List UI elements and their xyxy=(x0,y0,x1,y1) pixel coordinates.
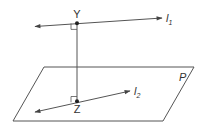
label-y: Y xyxy=(73,8,81,20)
line-l1 xyxy=(35,18,162,27)
label-l2-subscript: 2 xyxy=(135,92,140,99)
label-z: Z xyxy=(74,103,81,115)
label-l1-subscript: 1 xyxy=(168,19,172,26)
label-l1: l1 xyxy=(166,12,172,26)
label-l2: l2 xyxy=(134,85,140,99)
label-plane-p: P xyxy=(179,71,187,83)
geometry-diagram: Y Z l1 l2 P xyxy=(0,0,206,133)
plane-p xyxy=(13,67,194,121)
point-y xyxy=(75,21,79,25)
line-l2 xyxy=(35,91,130,112)
